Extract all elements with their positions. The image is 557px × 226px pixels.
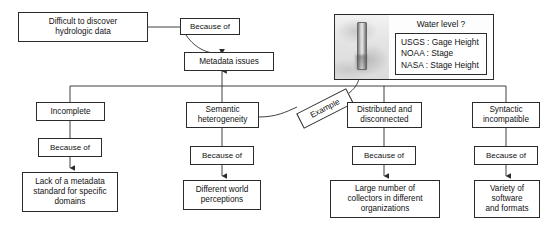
node-metadata-issues: Metadata issues bbox=[184, 52, 274, 71]
node-branch2-connector: Because of bbox=[190, 146, 254, 165]
node-branch4-connector: Because of bbox=[474, 146, 538, 165]
node-branch3-connector: Because of bbox=[352, 146, 416, 165]
agency-row-usgs: USGS : Gage Height bbox=[401, 37, 481, 48]
node-branch1-connector: Because of bbox=[38, 138, 102, 157]
node-branch-semantic-heterogeneity: Semantic heterogeneity bbox=[186, 102, 259, 128]
node-branch3-cause: Large number of collectors in different … bbox=[330, 180, 440, 218]
node-branch2-cause: Different world perceptions bbox=[183, 180, 261, 210]
node-branch1-cause: Lack of a metadata standard for specific… bbox=[22, 172, 118, 212]
node-branch-distributed-disconnected: Distributed and disconnected bbox=[347, 102, 422, 128]
node-branch4-cause: Variety of software and formats bbox=[474, 180, 540, 218]
water-level-text-area: Water level ? USGS : Gage Height NOAA : … bbox=[389, 15, 493, 79]
diagram-canvas: Difficult to discover hydrologic data Be… bbox=[0, 0, 557, 226]
agency-row-noaa: NOAA : Stage bbox=[401, 48, 481, 59]
gauge-shadow-icon bbox=[356, 55, 367, 71]
water-level-agency-list: USGS : Gage Height NOAA : Stage NASA : S… bbox=[395, 33, 487, 75]
node-example-tag: Example bbox=[296, 88, 354, 129]
node-branch-syntactic-incompatible: Syntactic incompatible bbox=[472, 102, 540, 128]
water-level-panel: Water level ? USGS : Gage Height NOAA : … bbox=[334, 14, 494, 80]
node-branch-incomplete: Incomplete bbox=[36, 102, 105, 121]
node-root-connector: Because of bbox=[180, 18, 240, 35]
gauge-staff-photo-icon bbox=[335, 15, 389, 79]
node-root-problem: Difficult to discover hydrologic data bbox=[18, 12, 148, 42]
water-level-title: Water level ? bbox=[417, 19, 466, 29]
agency-row-nasa: NASA : Stage Height bbox=[401, 60, 481, 71]
